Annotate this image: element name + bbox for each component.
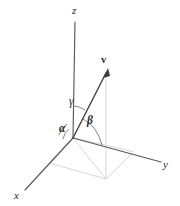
vector-v	[73, 68, 110, 138]
gamma-arc	[74, 106, 85, 110]
coordinate-axes	[25, 22, 161, 190]
y-axis	[73, 138, 161, 162]
figure-canvas	[0, 0, 180, 206]
gamma-angle-label: γ	[69, 96, 74, 108]
projection-parallelogram	[49, 138, 133, 179]
vector-v-arrowhead	[103, 68, 110, 78]
vector-v-label: v	[101, 55, 106, 66]
alpha-angle-label: α	[59, 123, 65, 135]
angle-arcs	[59, 106, 102, 145]
beta-angle-label: β	[87, 115, 93, 127]
x-axis	[25, 138, 73, 190]
z-axis	[73, 22, 75, 138]
x-axis-label: x	[14, 190, 19, 201]
vector-v-shaft	[73, 73, 106, 138]
vector-direction-angles-figure: z x y v α β γ	[0, 0, 180, 206]
y-axis-label: y	[163, 159, 168, 170]
z-axis-label: z	[72, 5, 76, 16]
